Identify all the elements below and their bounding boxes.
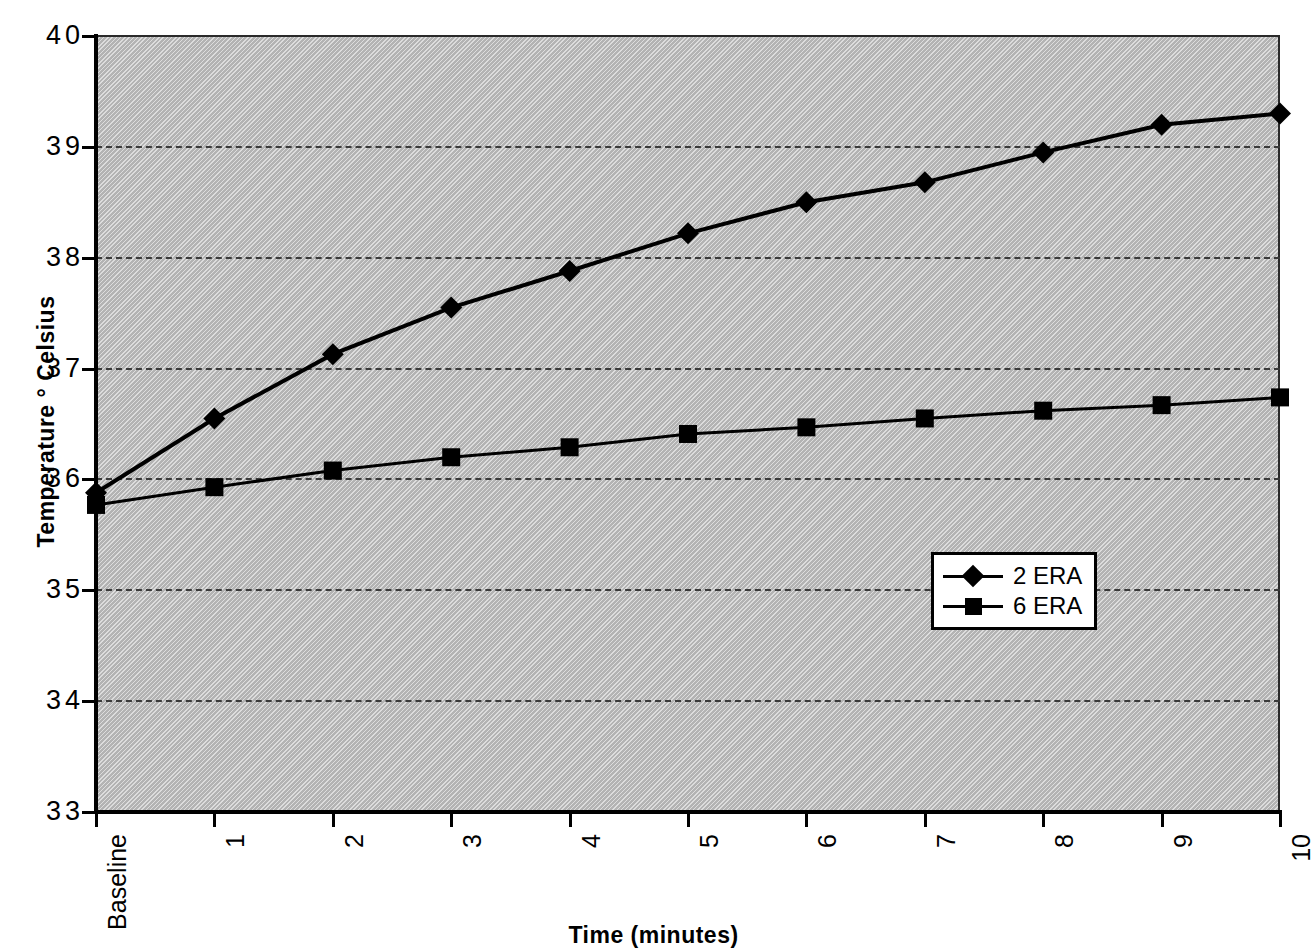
x-axis-tick <box>805 810 808 827</box>
diamond-marker-icon <box>943 564 1003 588</box>
square-marker-icon <box>943 594 1003 618</box>
legend-label-2-era: 2 ERA <box>1003 562 1082 590</box>
y-axis-tick-label: 40 <box>22 22 84 49</box>
x-axis-title: Time (minutes) <box>0 922 1307 949</box>
data-point-diamond <box>203 407 225 429</box>
x-axis-tick-label: 2 <box>342 834 367 848</box>
series-plot <box>96 36 1280 812</box>
legend-label-6-era: 6 ERA <box>1003 592 1082 620</box>
x-axis-tick-label: 7 <box>934 834 959 848</box>
data-point-diamond <box>795 191 817 213</box>
data-point-diamond <box>1151 114 1173 136</box>
data-point-square <box>679 425 697 443</box>
x-axis-tick-label: 6 <box>815 834 840 848</box>
chart-legend[interactable]: 2 ERA 6 ERA <box>931 552 1097 630</box>
x-axis-tick <box>95 810 98 827</box>
data-point-square <box>1271 388 1289 406</box>
x-axis-tick-label: 8 <box>1052 834 1077 848</box>
series-6-era <box>87 388 1289 514</box>
x-axis-tick <box>1161 810 1164 827</box>
data-point-diamond <box>1032 141 1054 163</box>
x-axis-tick-label: 1 <box>223 834 248 848</box>
x-axis-tick <box>332 810 335 827</box>
data-point-diamond <box>1269 103 1291 125</box>
y-axis-tick-label: 35 <box>22 576 84 603</box>
data-point-diamond <box>440 297 462 319</box>
series-2-era <box>85 103 1291 504</box>
y-axis-tick-label: 33 <box>22 798 84 825</box>
x-axis-tick <box>450 810 453 827</box>
data-point-square <box>1034 402 1052 420</box>
data-point-diamond <box>559 260 581 282</box>
y-axis-tick-label: 38 <box>22 244 84 271</box>
x-axis-tick <box>213 810 216 827</box>
data-point-diamond <box>677 222 699 244</box>
x-axis-tick <box>687 810 690 827</box>
y-axis-tick-label: 39 <box>22 133 84 160</box>
x-axis-tick-label: 10 <box>1289 834 1314 862</box>
x-axis-tick-label: 5 <box>697 834 722 848</box>
x-axis-tick-label: 4 <box>579 834 604 848</box>
data-point-square <box>442 448 460 466</box>
x-axis-tick <box>1042 810 1045 827</box>
legend-item-6-era[interactable]: 6 ERA <box>934 591 1094 621</box>
x-axis-tick-label: 3 <box>460 834 485 848</box>
data-point-square <box>797 418 815 436</box>
x-axis-tick <box>1279 810 1282 827</box>
x-axis-tick <box>569 810 572 827</box>
data-point-square <box>916 409 934 427</box>
x-axis-tick-label: 9 <box>1171 834 1196 848</box>
series-line <box>96 397 1280 505</box>
data-point-square <box>87 496 105 514</box>
data-point-square <box>1153 396 1171 414</box>
data-point-square <box>324 462 342 480</box>
legend-item-2-era[interactable]: 2 ERA <box>934 561 1094 591</box>
x-axis-tick-label: Baseline <box>105 834 130 930</box>
data-point-diamond <box>322 343 344 365</box>
data-point-square <box>205 478 223 496</box>
y-axis-title: Temperature ° Celsius <box>33 292 60 552</box>
y-axis-tick-label: 34 <box>22 687 84 714</box>
data-point-diamond <box>914 171 936 193</box>
x-axis-tick <box>924 810 927 827</box>
data-point-square <box>561 438 579 456</box>
